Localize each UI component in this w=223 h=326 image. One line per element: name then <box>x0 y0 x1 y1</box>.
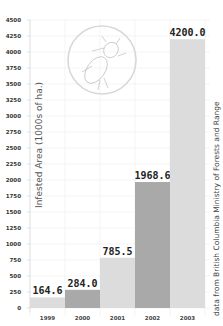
source-annotation: data from British Columbia Ministry of F… <box>212 101 221 316</box>
bar-value-label: 284.0 <box>67 278 97 289</box>
x-tick-label: 1999 <box>40 315 55 321</box>
bar-2003 <box>170 39 205 308</box>
bar-2001 <box>100 258 135 308</box>
x-tick-label: 2002 <box>145 315 160 321</box>
x-tick-label: 2000 <box>75 315 90 321</box>
y-tick-label: 4500 <box>6 17 21 23</box>
x-tick-label: 2003 <box>180 315 195 321</box>
y-axis: 0250500750100012501500175020002250250027… <box>6 17 30 312</box>
y-axis-label: Infested Area (1000s of ha.) <box>34 82 44 208</box>
y-tick-label: 2000 <box>6 177 21 183</box>
y-tick-label: 1750 <box>6 193 21 199</box>
bar-value-label: 785.5 <box>102 246 132 257</box>
bar-value-label: 1968.6 <box>134 170 170 181</box>
y-tick-label: 500 <box>10 273 22 279</box>
y-tick-label: 250 <box>10 289 22 295</box>
y-tick-label: 3500 <box>6 81 21 87</box>
y-tick-label: 1500 <box>6 209 21 215</box>
y-tick-label: 750 <box>10 257 22 263</box>
y-tick-label: 3250 <box>6 97 21 103</box>
y-tick-label: 2250 <box>6 161 21 167</box>
bar-2002 <box>135 182 170 308</box>
bar-2000 <box>65 290 100 308</box>
bars: 164.6284.0785.51968.64200.0 <box>30 27 206 308</box>
y-tick-label: 4250 <box>6 33 21 39</box>
bar-value-label: 4200.0 <box>169 27 205 38</box>
y-tick-label: 0 <box>17 305 21 311</box>
bar-value-label: 164.6 <box>32 285 62 296</box>
y-tick-label: 1250 <box>6 225 21 231</box>
y-tick-label: 1000 <box>6 241 21 247</box>
y-tick-label: 2500 <box>6 145 21 151</box>
y-tick-label: 3000 <box>6 113 21 119</box>
y-tick-label: 2750 <box>6 129 21 135</box>
bar-1999 <box>30 297 65 308</box>
x-axis-labels: 19992000200120022003 <box>40 315 195 321</box>
x-tick-label: 2001 <box>110 315 125 321</box>
y-tick-label: 3750 <box>6 65 21 71</box>
bar-chart: 0250500750100012501500175020002250250027… <box>0 0 223 326</box>
y-tick-label: 4000 <box>6 49 21 55</box>
